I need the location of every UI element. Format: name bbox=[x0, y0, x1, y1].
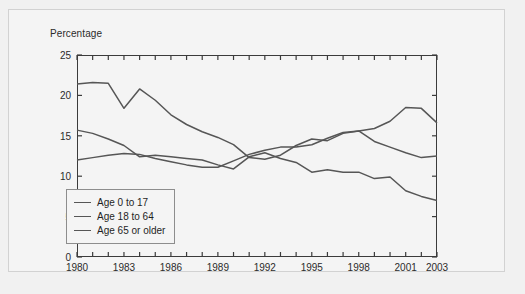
x-tick-1989: 1989 bbox=[198, 262, 238, 273]
x-tick-1995: 1995 bbox=[292, 262, 332, 273]
figure-root: Percentage 0510152025 198019831986198919… bbox=[0, 0, 525, 294]
legend-swatch-icon bbox=[74, 216, 91, 217]
y-tick-0: 0 bbox=[47, 252, 71, 263]
x-tick-1980: 1980 bbox=[57, 262, 97, 273]
y-tick-15: 15 bbox=[47, 130, 71, 141]
y-tick-20: 20 bbox=[47, 90, 71, 101]
legend-label: Age 0 to 17 bbox=[97, 197, 148, 208]
y-tick-25: 25 bbox=[47, 50, 71, 61]
x-tick-1986: 1986 bbox=[151, 262, 191, 273]
x-tick-1998: 1998 bbox=[339, 262, 379, 273]
legend-label: Age 65 or older bbox=[97, 225, 165, 236]
y-tick-10: 10 bbox=[47, 171, 71, 182]
legend-swatch-icon bbox=[74, 230, 91, 231]
legend-label: Age 18 to 64 bbox=[97, 211, 154, 222]
x-tick-2003: 2003 bbox=[417, 262, 457, 273]
x-tick-1992: 1992 bbox=[245, 262, 285, 273]
legend-item-2: Age 65 or older bbox=[74, 223, 165, 237]
legend-swatch-icon bbox=[74, 202, 91, 203]
legend-item-1: Age 18 to 64 bbox=[74, 209, 165, 223]
y-axis-title: Percentage bbox=[50, 28, 102, 39]
legend: Age 0 to 17Age 18 to 64Age 65 or older bbox=[66, 189, 175, 244]
x-tick-1983: 1983 bbox=[104, 262, 144, 273]
legend-item-0: Age 0 to 17 bbox=[74, 195, 165, 209]
